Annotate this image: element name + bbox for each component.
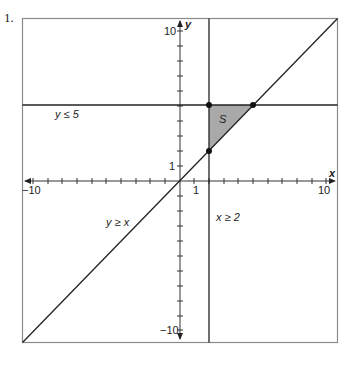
y-one-label: 1 <box>169 160 175 172</box>
vertex-point <box>206 102 212 108</box>
x-one-label: 1 <box>193 184 199 196</box>
x-axis-label: x <box>328 167 336 179</box>
vertex-point <box>206 148 212 154</box>
y-axis-label: y <box>184 18 192 30</box>
label-x-ge-2: x ≥ 2 <box>215 211 240 223</box>
label-y-le-5: y ≤ 5 <box>54 108 80 120</box>
inequality-graph: −10 10 1 10 −10 1 x y y ≤ 5 y ≥ x x ≥ 2 … <box>0 0 352 368</box>
region-s-label: S <box>219 113 227 125</box>
label-y-ge-x: y ≥ x <box>105 216 130 228</box>
vertex-point <box>250 102 256 108</box>
arrow-up-icon <box>177 20 183 27</box>
y-neg-ten-label: −10 <box>160 324 179 336</box>
x-pos-ten-label: 10 <box>318 184 330 196</box>
x-neg-ten-label: −10 <box>22 184 41 196</box>
y-pos-ten-label: 10 <box>164 25 176 37</box>
